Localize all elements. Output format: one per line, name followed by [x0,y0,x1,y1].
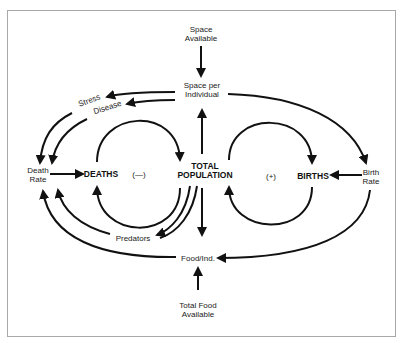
arrow-deaths-loop-top [97,121,180,162]
arrow-birth-food [218,190,370,258]
node-food-per-ind: Food/Ind. [181,254,215,263]
label-negative-loop: (—) [132,170,145,179]
label-positive-loop: (+) [266,172,276,181]
node-deaths: DEATHS [84,170,118,179]
arrow-stress-death [40,113,72,163]
label-predators: Predators [116,234,151,243]
label-total-food-available: Total Food Available [179,301,216,319]
arrow-births-tp-bottom [229,187,312,225]
node-births: BIRTHS [297,172,329,181]
arrow-predators-2 [58,190,110,234]
label-space-available: Space Available [185,25,217,43]
label-birth-rate: Birth Rate [363,168,380,186]
arrow-tp-loop-bottom [97,187,180,228]
arrow-tp-births-top [229,123,312,163]
arrow-disease-death [52,119,87,163]
arrow-disease [127,100,175,104]
label-death-rate: Death Rate [27,166,48,184]
label-space-per-individual: Space per Individual [184,81,220,99]
node-total-population: TOTAL POPULATION [177,162,232,180]
arrow-stress [107,92,175,97]
